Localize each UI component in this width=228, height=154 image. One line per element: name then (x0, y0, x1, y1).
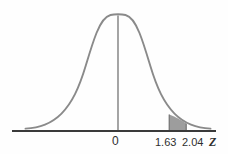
tick-label-zero: 0 (112, 134, 119, 148)
tick-label-1-63: 1.63 (155, 136, 176, 148)
axis-variable-label: Z (209, 135, 216, 150)
normal-distribution-figure: 0 1.63 2.04 Z (0, 0, 228, 154)
tick-label-2-04: 2.04 (182, 136, 203, 148)
distribution-plot (0, 0, 228, 154)
